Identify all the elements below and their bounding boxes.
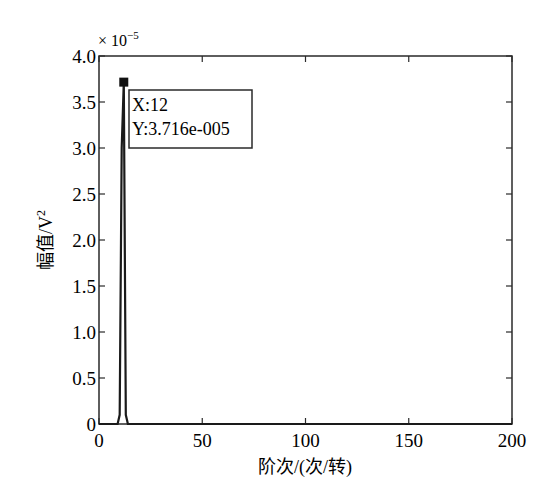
y-axis-title: 幅值/V2	[34, 210, 56, 270]
datatip-marker[interactable]	[119, 78, 128, 87]
y-tick-label: 1.0	[72, 322, 96, 343]
x-tick-label: 150	[395, 430, 424, 451]
y-tick-label: 4.0	[72, 46, 96, 67]
datatip-x-text: X:12	[132, 95, 168, 115]
y-multiplier-label: × 10−5	[98, 29, 139, 49]
y-tick-label: 3.0	[72, 138, 96, 159]
datatip[interactable]: X:12 Y:3.716e-005	[129, 90, 252, 148]
y-tick-label: 2.5	[72, 184, 96, 205]
y-tick-label: 0	[87, 414, 97, 435]
datatip-y-text: Y:3.716e-005	[132, 119, 230, 139]
y-tick-label: 3.5	[72, 92, 96, 113]
y-tick-label: 0.5	[72, 368, 96, 389]
x-tick-label: 100	[291, 430, 320, 451]
y-tick-label: 1.5	[72, 276, 96, 297]
x-tick-label: 50	[193, 430, 212, 451]
x-axis-title: 阶次/(次/转)	[258, 457, 352, 478]
x-tick-label: 200	[498, 430, 527, 451]
order-spectrum-chart: × 10−5 050100150200 00.51.01.52.02.53.03…	[0, 0, 558, 504]
y-tick-label: 2.0	[72, 230, 96, 251]
